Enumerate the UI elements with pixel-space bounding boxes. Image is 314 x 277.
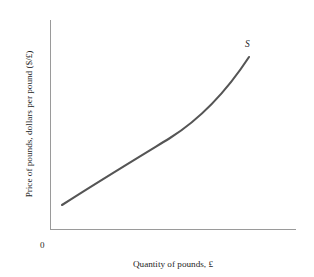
chart-canvas: S 0 Price of pounds, dollars per pound (… <box>0 0 314 277</box>
supply-curve-figure: S 0 Price of pounds, dollars per pound (… <box>0 0 314 277</box>
origin-label: 0 <box>40 240 45 250</box>
supply-curve-label: S <box>245 39 250 49</box>
supply-curve-line <box>62 57 249 205</box>
x-axis-title: Quantity of pounds, £ <box>133 259 214 269</box>
y-axis-title: Price of pounds, dollars per pound ($/£) <box>24 51 34 198</box>
